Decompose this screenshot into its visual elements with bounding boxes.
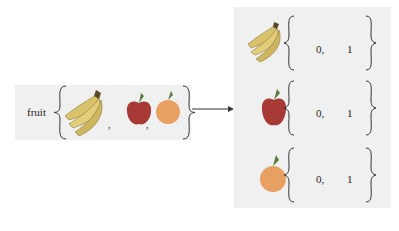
orange-icon — [155, 91, 181, 125]
separator-1: , — [108, 119, 111, 130]
value-zero: 0, — [316, 43, 324, 55]
value-one: 1 — [347, 43, 353, 55]
value-one: 1 — [347, 107, 353, 119]
fruit-label: fruit — [27, 106, 46, 118]
fruit-set-panel: fruit , , — [15, 85, 191, 140]
right-brace-icon — [182, 85, 196, 140]
value-one: 1 — [347, 173, 353, 185]
fruit-encoding-panel: 0, 1 0, 1 0, 1 — [234, 7, 391, 208]
banana-icon — [246, 22, 284, 64]
arrow-icon — [192, 106, 234, 112]
left-brace-icon — [283, 147, 295, 203]
value-zero: 0, — [316, 107, 324, 119]
banana-icon — [63, 90, 107, 138]
right-brace-icon — [365, 80, 377, 136]
left-brace-icon — [283, 15, 295, 71]
separator-2: , — [146, 119, 149, 130]
right-brace-icon — [365, 15, 377, 71]
right-brace-icon — [365, 147, 377, 203]
value-zero: 0, — [316, 173, 324, 185]
left-brace-icon — [283, 80, 295, 136]
